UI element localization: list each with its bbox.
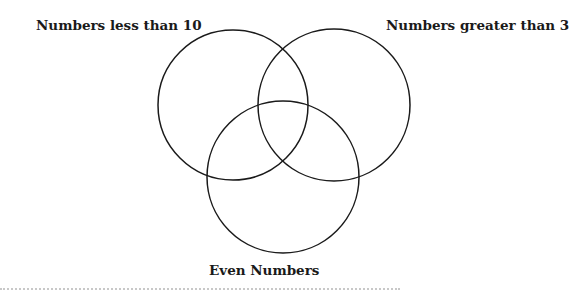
circle-even-numbers — [207, 101, 359, 253]
label-less-than-10: Numbers less than 10 — [36, 17, 202, 33]
label-greater-than-3: Numbers greater than 3 — [386, 17, 569, 33]
label-even-numbers: Even Numbers — [209, 262, 319, 278]
circle-greater-than-3 — [258, 29, 410, 181]
circle-less-than-10 — [158, 30, 308, 180]
dotted-divider — [0, 288, 400, 290]
venn-diagram — [0, 0, 582, 295]
